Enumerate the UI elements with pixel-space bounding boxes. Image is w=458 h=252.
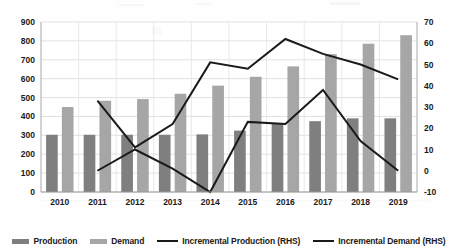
y-axis-right-tick: 60 xyxy=(424,38,434,48)
legend-label: Demand xyxy=(111,236,144,246)
y-axis-left-labels: 0100200300400500600700800900 xyxy=(21,17,35,197)
y-axis-right-tick: -10 xyxy=(424,187,437,197)
y-axis-left-tick: 300 xyxy=(21,130,35,140)
legend-swatch-line-icon xyxy=(313,240,334,242)
legend-label: Incremental Production (RHS) xyxy=(182,236,300,246)
legend-item-1[interactable]: Production xyxy=(12,236,77,246)
bar-2011 xyxy=(84,135,96,192)
bar-2015 xyxy=(234,131,246,192)
bar-2019 xyxy=(384,118,396,192)
y-axis-right-tick: 50 xyxy=(424,60,434,70)
y-axis-left-tick: 900 xyxy=(21,17,35,27)
bar-2016 xyxy=(272,124,284,192)
bar-2010 xyxy=(62,107,74,192)
x-axis-tick-2017: 2017 xyxy=(314,197,333,207)
bar-2019 xyxy=(400,35,412,192)
y-axis-left-tick: 500 xyxy=(21,93,35,103)
legend-item-4[interactable]: Incremental Demand (RHS) xyxy=(313,236,445,246)
y-axis-right-tick: 0 xyxy=(424,166,429,176)
y-axis-left-tick: 100 xyxy=(21,168,35,178)
y-axis-left-tick: 0 xyxy=(30,187,35,197)
y-axis-right-tick: 30 xyxy=(424,102,434,112)
x-axis-tick-2014: 2014 xyxy=(201,197,220,207)
x-axis-tick-2019: 2019 xyxy=(389,197,408,207)
x-axis-tick-2012: 2012 xyxy=(126,197,145,207)
bar-2017 xyxy=(309,121,321,192)
x-axis-tick-2015: 2015 xyxy=(238,197,257,207)
y-axis-right-tick: 40 xyxy=(424,81,434,91)
bar-2015 xyxy=(250,77,262,192)
legend-label: Incremental Demand (RHS) xyxy=(338,236,445,246)
x-axis-tick-2016: 2016 xyxy=(276,197,295,207)
x-axis-tick-2010: 2010 xyxy=(50,197,69,207)
y-axis-right-labels: -10010203040506070 xyxy=(424,17,437,197)
x-axis-tick-2018: 2018 xyxy=(351,197,370,207)
combo-chart-plot: 0100200300400500600700800900-10010203040… xyxy=(0,0,458,252)
x-axis-labels: 2010201120122013201420152016201720182019 xyxy=(50,197,408,207)
bar-2010 xyxy=(46,135,58,192)
chart-container: 0100200300400500600700800900-10010203040… xyxy=(0,0,458,252)
bar-2013 xyxy=(175,94,187,192)
y-axis-right-tick: 20 xyxy=(424,123,434,133)
y-axis-left-tick: 200 xyxy=(21,149,35,159)
x-axis-tick-2011: 2011 xyxy=(88,197,107,207)
y-axis-left-tick: 400 xyxy=(21,111,35,121)
bar-2014 xyxy=(196,134,208,192)
chart-legend: ProductionDemandIncremental Production (… xyxy=(0,236,458,246)
legend-swatch-line-icon xyxy=(157,240,178,242)
bar-2016 xyxy=(287,66,299,192)
bar-2017 xyxy=(325,54,337,192)
y-axis-left-tick: 700 xyxy=(21,55,35,65)
y-axis-left-tick: 600 xyxy=(21,74,35,84)
legend-swatch-bar-icon xyxy=(12,239,29,244)
legend-swatch-bar-icon xyxy=(90,239,107,244)
y-axis-right-tick: 10 xyxy=(424,145,434,155)
legend-label: Production xyxy=(33,236,77,246)
x-axis-tick-2013: 2013 xyxy=(163,197,182,207)
legend-item-3[interactable]: Incremental Production (RHS) xyxy=(157,236,300,246)
y-axis-right-tick: 70 xyxy=(424,17,434,27)
y-axis-left-tick: 800 xyxy=(21,36,35,46)
legend-item-2[interactable]: Demand xyxy=(90,236,144,246)
